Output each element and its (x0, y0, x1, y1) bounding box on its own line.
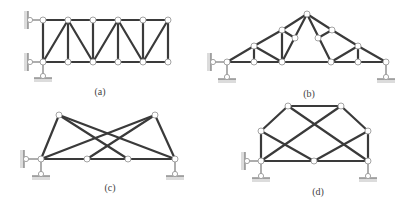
truss-joint (140, 17, 146, 23)
truss-joint (90, 59, 96, 65)
truss-joint (152, 112, 158, 118)
truss-joint (292, 35, 298, 41)
truss-member (254, 30, 282, 46)
support-pin-icon (365, 173, 370, 178)
truss-member (261, 106, 288, 131)
truss-member (43, 20, 68, 62)
truss-joint (125, 156, 131, 162)
truss-joint (258, 158, 264, 164)
support-pin-icon (258, 173, 263, 178)
support-pin-icon (210, 59, 215, 64)
truss-joint (258, 128, 264, 134)
truss-joint (84, 156, 90, 162)
truss-joint (279, 27, 285, 33)
support-pin-icon (172, 171, 177, 176)
truss-joint (165, 59, 171, 65)
truss-joint (329, 27, 335, 33)
truss-joint (38, 156, 44, 162)
truss-member (93, 20, 118, 62)
truss-joint (315, 35, 321, 41)
truss-joint (90, 17, 96, 23)
truss-joint (165, 17, 171, 23)
truss-joint (338, 103, 344, 109)
truss-member (358, 46, 386, 62)
support-pin-icon (27, 17, 32, 22)
support-pin-icon (40, 73, 45, 78)
truss-panel-c (20, 112, 184, 180)
truss-joint (65, 59, 71, 65)
truss-joint (365, 128, 371, 134)
truss-member (331, 46, 358, 62)
panel-caption-a: (a) (94, 86, 105, 97)
truss-joint (56, 112, 62, 118)
truss-panel-d (241, 103, 377, 182)
truss-member (118, 20, 143, 62)
truss-joint (224, 59, 230, 65)
truss-joint (383, 59, 389, 65)
support-pin-icon (27, 59, 32, 64)
truss-joint (355, 59, 361, 65)
support-pin-icon (38, 171, 43, 176)
support-pin-icon (244, 158, 249, 163)
truss-joint (279, 59, 285, 65)
truss-joint (40, 59, 46, 65)
support-pin-icon (383, 74, 388, 79)
truss-diagram (0, 0, 414, 205)
truss-member (332, 30, 358, 46)
truss-joint (251, 43, 257, 49)
truss-joint (172, 156, 178, 162)
truss-joint (285, 103, 291, 109)
truss-joint (311, 158, 317, 164)
panel-caption-b: (b) (303, 88, 315, 99)
support-pin-icon (224, 74, 229, 79)
truss-panel-b (207, 11, 395, 83)
truss-member (143, 20, 168, 62)
panel-caption-c: (c) (104, 182, 115, 193)
truss-joint (328, 59, 334, 65)
truss-member (227, 46, 254, 62)
truss-joint (40, 17, 46, 23)
truss-joint (304, 11, 310, 17)
truss-joint (65, 17, 71, 23)
truss-joint (355, 43, 361, 49)
truss-joint (140, 59, 146, 65)
truss-joint (115, 17, 121, 23)
support-pin-icon (23, 156, 28, 161)
truss-member (341, 106, 368, 131)
truss-joint (365, 158, 371, 164)
truss-joint (115, 59, 121, 65)
truss-member (254, 46, 282, 62)
truss-joint (251, 59, 257, 65)
panel-caption-d: (d) (312, 186, 324, 197)
truss-member (68, 20, 93, 62)
truss-panel-a (24, 11, 171, 82)
